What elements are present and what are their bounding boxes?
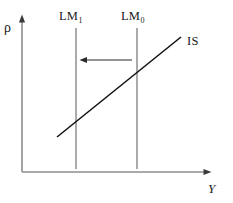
x-axis-label: Y: [208, 182, 215, 195]
shift-arrow-head-icon: [80, 57, 88, 63]
is-label: IS: [187, 35, 199, 48]
shift-arrow: [80, 57, 133, 63]
lm0-label: LM0: [121, 10, 144, 23]
y-axis-arrowhead-icon: [19, 15, 25, 23]
lm0-label-subscript: 0: [140, 16, 144, 25]
x-axis: [22, 169, 212, 175]
y-axis-label: ρ: [4, 21, 11, 35]
lm0-label-text: LM: [121, 9, 140, 23]
lm1-label-text: LM: [59, 9, 78, 23]
lm1-label: LM1: [59, 10, 82, 23]
y-axis: [19, 15, 25, 173]
chart-canvas: [0, 0, 233, 203]
is-lm-diagram: LM1 LM0 IS ρ Y: [0, 0, 233, 203]
x-axis-arrowhead-icon: [204, 169, 212, 175]
lm1-label-subscript: 1: [78, 16, 82, 25]
